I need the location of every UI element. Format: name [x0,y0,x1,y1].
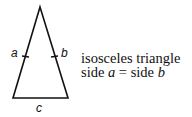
label-side-a: a [11,46,18,60]
triangle-outline [13,7,68,98]
label-side-c: c [36,101,42,115]
caption-equality: side a = side b [81,65,165,79]
caption-title: isosceles triangle [81,51,180,65]
tick-mark-side-b [51,56,58,57]
caption-text: = side [115,64,157,80]
caption-text: side [81,64,108,80]
caption-var-b: b [158,64,165,80]
label-side-b: b [61,46,68,60]
tick-mark-side-a [22,56,29,57]
